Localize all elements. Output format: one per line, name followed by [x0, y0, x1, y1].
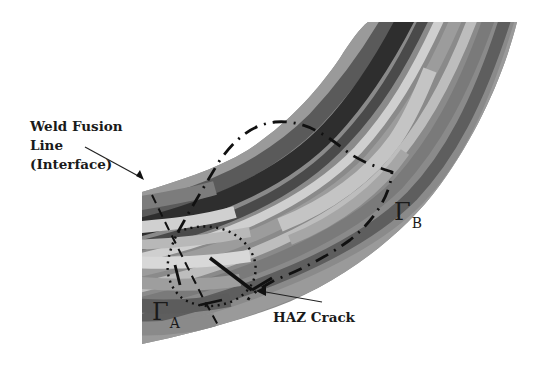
haz-crack-label: HAZ Crack: [273, 308, 355, 327]
weld-fusion-line-label: Weld Fusion Line (Interface): [30, 117, 123, 174]
gamma-b-symbol: Γ: [394, 198, 411, 226]
weld-fusion-line-arrowhead: [136, 170, 144, 180]
gamma-a-label: ΓA: [152, 298, 180, 326]
gamma-a-symbol: Γ: [152, 298, 169, 326]
weld-label-line-2: Line: [30, 136, 123, 155]
weld-label-line-1: Weld Fusion: [30, 117, 123, 136]
gamma-b-label: ΓB: [394, 198, 422, 226]
gamma-a-subscript: A: [170, 315, 180, 331]
gamma-b-subscript: B: [412, 215, 422, 231]
weld-label-line-3: (Interface): [30, 155, 123, 174]
weld-contour-figure: Weld Fusion Line (Interface) HAZ Crack Γ…: [0, 0, 545, 368]
